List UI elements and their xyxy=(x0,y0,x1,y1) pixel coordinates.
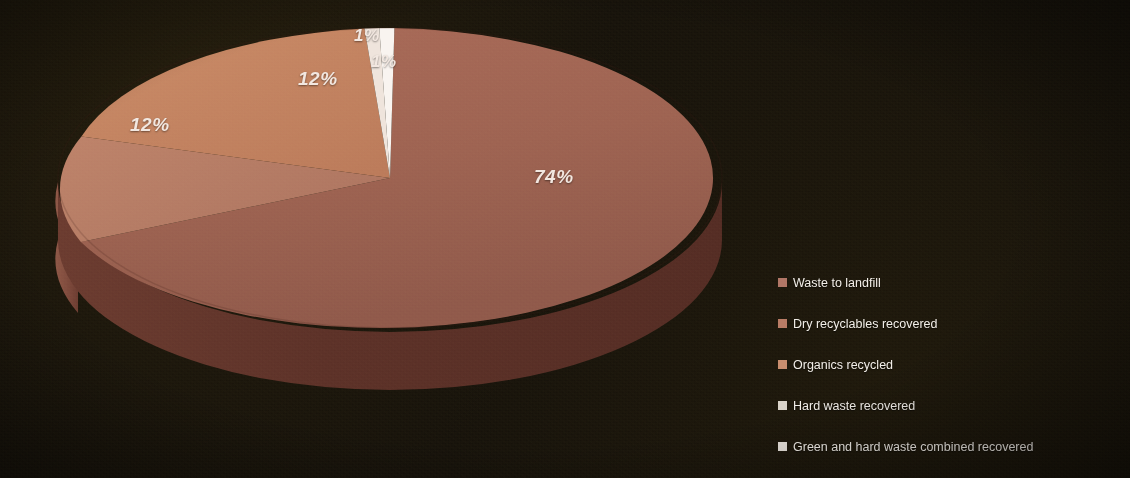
legend-item-label: Organics recycled xyxy=(793,358,893,372)
legend-item-green-and-hard-waste-combined-recovered[interactable]: Green and hard waste combined recovered xyxy=(778,426,1118,467)
legend-item-waste-to-landfill[interactable]: Waste to landfill xyxy=(778,262,1118,303)
legend-item-organics-recycled[interactable]: Organics recycled xyxy=(778,344,1118,385)
legend-swatch-icon xyxy=(778,360,787,369)
slice-label-12-dry: 12% xyxy=(130,114,170,136)
slice-label-12-organics: 12% xyxy=(298,68,338,90)
legend-item-dry-recyclables-recovered[interactable]: Dry recyclables recovered xyxy=(778,303,1118,344)
legend-item-label: Waste to landfill xyxy=(793,276,881,290)
legend-swatch-icon xyxy=(778,319,787,328)
pie-chart-slide: 74% 12% 12% 1% 1% Waste to landfill Dry … xyxy=(0,0,1130,478)
chart-legend: Waste to landfill Dry recyclables recove… xyxy=(778,262,1118,467)
slice-label-1-green: 1% xyxy=(371,52,397,72)
legend-swatch-icon xyxy=(778,442,787,451)
slice-label-1-hard: 1% xyxy=(354,26,380,46)
legend-swatch-icon xyxy=(778,401,787,410)
slice-label-74: 74% xyxy=(534,166,574,188)
legend-item-hard-waste-recovered[interactable]: Hard waste recovered xyxy=(778,385,1118,426)
legend-item-label: Hard waste recovered xyxy=(793,399,915,413)
legend-swatch-icon xyxy=(778,278,787,287)
legend-item-label: Dry recyclables recovered xyxy=(793,317,938,331)
chart-plot-area: 74% 12% 12% 1% 1% xyxy=(0,0,760,478)
legend-item-label: Green and hard waste combined recovered xyxy=(793,440,1033,454)
